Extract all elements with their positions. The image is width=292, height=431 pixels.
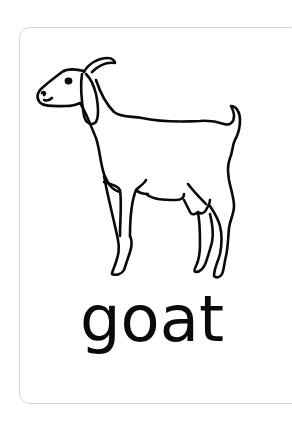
goat-illustration (0, 0, 292, 300)
goat-icon (0, 0, 292, 300)
card-word: goat (0, 287, 292, 351)
